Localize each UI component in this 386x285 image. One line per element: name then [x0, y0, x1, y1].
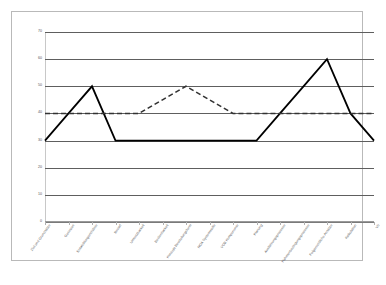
x-label-13: Kalkulation — [345, 224, 358, 240]
y-tick-label-50: 50 — [38, 84, 42, 88]
x-label-8: VOB Komponente — [221, 224, 240, 249]
x-axis-category-labels: Ziel und GrundsätzeGesetzesEntwicklungsr… — [45, 224, 374, 272]
y-tick-label-40: 40 — [38, 112, 42, 116]
x-label-6: Konzept Beurteilungsform — [167, 224, 193, 259]
x-label-10: Ausführungsprozesse — [264, 224, 287, 254]
x-label-14: Vb — [376, 224, 381, 230]
x-label-3: Bedarf — [114, 224, 123, 235]
plot-area: 010203040506070 — [45, 32, 374, 222]
y-tick-label-70: 70 — [38, 30, 42, 34]
x-label-9: Planung — [253, 224, 263, 237]
plot-inner: 010203040506070 — [45, 32, 374, 222]
x-label-11: Rahmenbedingungsprozesse — [281, 224, 310, 264]
x-label-7: NOA Systemstelle — [197, 224, 216, 249]
y-tick-label-10: 10 — [38, 193, 42, 197]
y-tick-label-30: 30 — [38, 139, 42, 143]
y-tick-label-20: 20 — [38, 166, 42, 170]
x-label-2: Entwicklungsrichtlinie — [77, 224, 99, 254]
series-lines — [45, 32, 374, 222]
y-tick-label-60: 60 — [38, 57, 42, 61]
x-label-4: Umsetzbarkeit — [130, 224, 146, 245]
x-label-1: Gesetzes — [64, 224, 75, 238]
series-line-0 — [45, 59, 374, 140]
x-label-12: Folgerechtliche Ansätze — [309, 224, 333, 257]
x-label-0: Ziel und Grundsätze — [31, 224, 52, 252]
y-tick-label-0: 0 — [40, 220, 42, 224]
x-label-5: Bedienbarkeit — [154, 224, 169, 244]
chart-frame: 010203040506070 Ziel und GrundsätzeGeset… — [11, 11, 363, 261]
